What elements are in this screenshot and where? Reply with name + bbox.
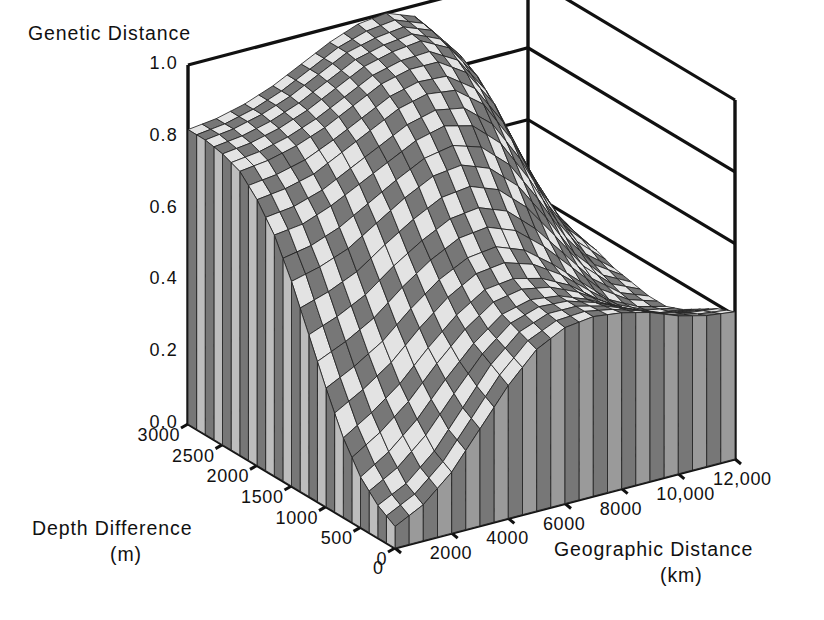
x-tick-label: 8000 — [600, 499, 642, 520]
x-tick-label: 12,000 — [713, 469, 772, 490]
skirt-patch — [494, 386, 508, 523]
skirt-patch — [205, 140, 214, 440]
skirt-patch — [223, 154, 232, 450]
skirt-patch — [721, 312, 735, 463]
z-axis-title: Genetic Distance — [28, 22, 191, 45]
z-tick-label: 0.8 — [130, 125, 178, 146]
skirt-patch — [551, 328, 565, 508]
z-tick-label: 0.4 — [130, 268, 178, 289]
x-axis-tick — [508, 518, 514, 523]
y-axis-tick — [216, 445, 223, 449]
y-tick-label: 2500 — [153, 446, 215, 467]
x-axis-units: (km) — [660, 564, 703, 587]
x-axis-tick — [395, 548, 401, 553]
x-axis-tick — [565, 504, 571, 509]
x-axis-tick — [452, 533, 458, 538]
x-tick-label: 10,000 — [656, 484, 715, 505]
y-tick-label: 3000 — [118, 425, 180, 446]
y-tick-label: 2000 — [187, 466, 249, 487]
skirt-patch — [274, 235, 283, 481]
skirt-patch — [480, 407, 494, 526]
skirt-patch — [231, 163, 240, 455]
y-tick-label: 1500 — [222, 487, 284, 508]
x-axis-title: Geographic Distance — [554, 538, 753, 561]
skirt-patch — [197, 135, 206, 435]
skirt-patch — [622, 313, 636, 489]
y-axis-tick — [250, 465, 257, 469]
skirt-patch — [523, 349, 537, 514]
y-tick-label: 500 — [291, 528, 353, 549]
y-tick-label: 1000 — [256, 508, 318, 529]
skirt-patch — [678, 316, 692, 474]
skirt-patch — [593, 315, 607, 496]
skirt-patch — [707, 314, 721, 467]
x-tick-label: 0 — [373, 558, 384, 579]
skirt-patch — [188, 130, 197, 430]
skirt-patch — [664, 314, 678, 477]
skirt-patch — [309, 335, 318, 502]
x-axis-tick — [735, 459, 741, 464]
skirt-patch — [650, 313, 664, 482]
y-axis-tick — [181, 424, 188, 428]
y-axis-tick — [319, 507, 326, 511]
skirt-patch — [636, 313, 650, 486]
y-axis-tick — [388, 548, 395, 552]
skirt-patch — [317, 362, 326, 507]
x-axis-tick — [678, 474, 684, 479]
skirt-patch — [266, 217, 275, 475]
y-axis-units: (m) — [110, 543, 142, 566]
skirt-patch — [214, 147, 223, 445]
z-tick-label: 0.6 — [130, 197, 178, 218]
z-tick-label: 1.0 — [130, 53, 178, 74]
skirt-patch — [608, 313, 622, 493]
skirt-patch — [240, 171, 249, 460]
skirt-patch — [257, 200, 266, 471]
x-tick-label: 4000 — [486, 528, 528, 549]
skirt-patch — [579, 317, 593, 500]
x-tick-label: 2000 — [430, 543, 472, 564]
skirt-patch — [537, 339, 551, 511]
skirt-patch — [508, 367, 522, 518]
y-axis-title: Depth Difference — [32, 517, 192, 540]
x-axis-tick — [622, 489, 628, 494]
skirt-patch — [565, 322, 579, 503]
skirt-patch — [292, 281, 301, 491]
y-axis-tick — [354, 527, 361, 531]
figure-canvas: Genetic Distance Depth Difference (m) Ge… — [0, 0, 824, 620]
y-axis-tick — [285, 486, 292, 490]
x-tick-label: 6000 — [543, 514, 585, 535]
skirt-patch — [300, 308, 309, 496]
skirt-patch — [248, 186, 257, 466]
skirt-patch — [693, 316, 707, 471]
skirt-patch — [283, 258, 292, 486]
z-tick-label: 0.2 — [130, 340, 178, 361]
